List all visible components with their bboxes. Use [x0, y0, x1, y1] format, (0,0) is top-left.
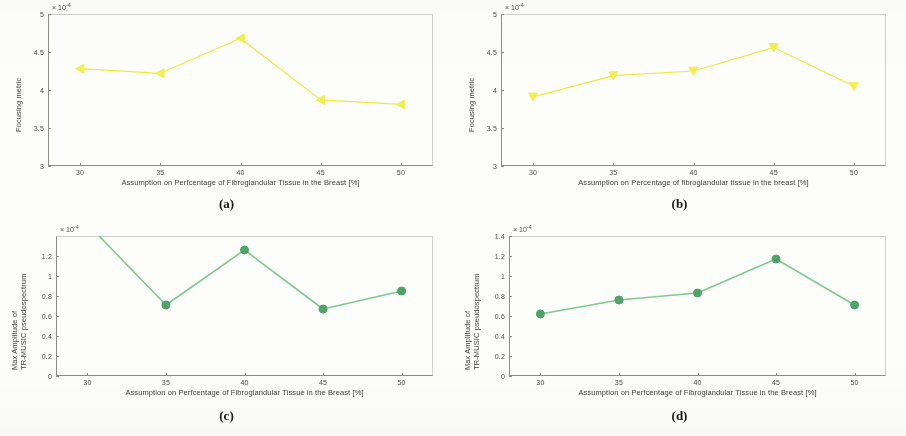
y-axis-label-c-line1: Max Amplitude of	[10, 311, 19, 370]
data-point-marker	[162, 301, 170, 309]
y-tick-label: 1.4	[495, 233, 505, 240]
caption-a: (a)	[0, 196, 453, 212]
x-tick-mark	[854, 163, 855, 166]
x-tick-mark	[619, 373, 620, 376]
plot-area-b: 33.544.553035404550 × 10-4	[501, 14, 886, 166]
x-tick-mark	[776, 373, 777, 376]
y-axis-label-c: Max Amplitude of TR-MUSIC pseudospectrum	[10, 274, 28, 371]
data-point-marker	[236, 34, 244, 43]
y-tick-mark	[509, 236, 512, 237]
x-tick-mark	[540, 373, 541, 376]
y-tick-mark	[48, 14, 51, 15]
y-tick-label: 0.4	[42, 333, 52, 340]
y-exponent-a: × 10-4	[52, 2, 71, 11]
data-point-marker	[319, 305, 327, 313]
x-axis-label-d: Assumption on Perfcentage of Fibroglandu…	[509, 388, 886, 397]
x-tick-mark	[855, 373, 856, 376]
y-tick-label: 4	[40, 87, 44, 94]
data-point-marker	[615, 296, 623, 304]
y-tick-label: 1	[48, 273, 52, 280]
x-tick-mark	[160, 163, 161, 166]
x-tick-label: 30	[536, 379, 544, 386]
x-tick-label: 40	[689, 169, 697, 176]
y-tick-mark	[56, 256, 59, 257]
series-a	[48, 14, 433, 166]
x-tick-mark	[694, 163, 695, 166]
y-tick-label: 1	[501, 273, 505, 280]
y-tick-mark	[501, 52, 504, 53]
y-exponent-b: × 10-4	[505, 2, 524, 11]
y-axis-label-b: Focusing metric	[467, 78, 476, 132]
y-exponent-d: × 10-4	[513, 224, 532, 233]
y-tick-mark	[48, 52, 51, 53]
x-tick-mark	[774, 163, 775, 166]
data-line	[87, 224, 401, 309]
data-point-marker	[694, 289, 702, 297]
x-tick-label: 45	[770, 169, 778, 176]
x-tick-label: 50	[850, 169, 858, 176]
panel-d: 00.20.40.60.811.21.43035404550 × 10-4 As…	[453, 218, 906, 436]
y-axis-label-a: Focusing metric	[14, 78, 23, 132]
caption-b: (b)	[453, 196, 906, 212]
x-tick-mark	[613, 163, 614, 166]
x-tick-label: 45	[772, 379, 780, 386]
y-tick-mark	[48, 166, 51, 167]
x-tick-label: 35	[156, 169, 164, 176]
y-tick-label: 0	[48, 373, 52, 380]
x-tick-label: 30	[83, 379, 91, 386]
x-tick-label: 30	[529, 169, 537, 176]
y-tick-label: 0.6	[495, 313, 505, 320]
y-tick-label: 4	[493, 87, 497, 94]
x-tick-label: 45	[317, 169, 325, 176]
x-axis-label-c: Assumption on Perfcentage of Fibroglandu…	[56, 388, 433, 397]
y-tick-mark	[48, 90, 51, 91]
y-tick-label: 0.4	[495, 333, 505, 340]
data-line	[80, 38, 401, 104]
x-tick-mark	[80, 163, 81, 166]
series-c	[56, 236, 433, 376]
x-tick-label: 35	[162, 379, 170, 386]
caption-c: (c)	[0, 408, 453, 424]
panel-b: 33.544.553035404550 × 10-4 Assumption on…	[453, 0, 906, 218]
y-tick-mark	[56, 356, 59, 357]
y-tick-label: 0	[501, 373, 505, 380]
y-tick-mark	[509, 276, 512, 277]
data-line	[540, 259, 854, 314]
x-tick-label: 40	[236, 169, 244, 176]
y-axis-label-d-line2: TR-MUSIC pseudospectrum	[472, 274, 481, 371]
data-point-marker	[536, 310, 544, 318]
y-tick-mark	[501, 14, 504, 15]
y-axis-label-d: Max Amplitude of TR-MUSIC pseudospectrum	[463, 274, 481, 371]
y-tick-label: 5	[493, 11, 497, 18]
caption-d: (d)	[453, 408, 906, 424]
y-tick-label: 4.5	[487, 49, 497, 56]
data-point-marker	[156, 69, 164, 78]
x-tick-label: 50	[397, 379, 405, 386]
panel-c: 00.20.40.60.811.23035404550 × 10-4 Assum…	[0, 218, 453, 436]
y-axis-label-c-line2: TR-MUSIC pseudospectrum	[19, 274, 28, 371]
y-tick-label: 0.8	[42, 293, 52, 300]
x-tick-mark	[321, 163, 322, 166]
y-tick-mark	[509, 316, 512, 317]
x-tick-mark	[698, 373, 699, 376]
panel-a: 33.544.553035404550 × 10-4 Assumption on…	[0, 0, 453, 218]
y-tick-label: 0.2	[495, 353, 505, 360]
y-tick-mark	[56, 336, 59, 337]
x-tick-label: 50	[397, 169, 405, 176]
y-tick-mark	[48, 128, 51, 129]
x-tick-mark	[245, 373, 246, 376]
x-tick-label: 35	[609, 169, 617, 176]
y-tick-label: 3	[493, 163, 497, 170]
y-tick-mark	[509, 296, 512, 297]
y-tick-mark	[501, 166, 504, 167]
y-tick-mark	[509, 256, 512, 257]
data-point-marker	[772, 255, 780, 263]
y-tick-label: 1.2	[495, 253, 505, 260]
data-point-marker	[398, 287, 406, 295]
plot-area-a: 33.544.553035404550 × 10-4	[48, 14, 433, 166]
y-tick-mark	[509, 336, 512, 337]
y-tick-mark	[509, 376, 512, 377]
y-tick-label: 1.2	[42, 253, 52, 260]
x-tick-label: 35	[615, 379, 623, 386]
y-tick-label: 3	[40, 163, 44, 170]
